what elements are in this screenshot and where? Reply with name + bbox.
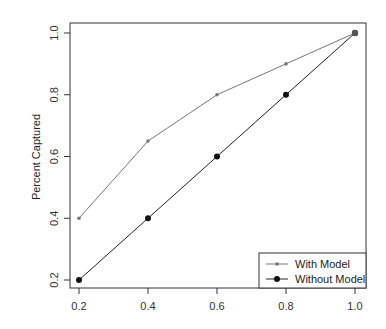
x-tick-label: 1.0 xyxy=(347,300,362,312)
y-tick-label: 1.0 xyxy=(48,25,60,40)
data-point xyxy=(352,30,358,36)
x-tick-label: 0.2 xyxy=(71,300,86,312)
data-point xyxy=(214,154,220,160)
with-model-legend-marker xyxy=(275,262,279,266)
y-tick-label: 0.8 xyxy=(48,87,60,102)
data-point xyxy=(283,92,289,98)
series-group xyxy=(76,30,358,283)
data-point xyxy=(77,216,81,220)
lift-chart: 0.20.40.60.81.0 0.20.40.60.81.0 Percent … xyxy=(0,0,386,329)
x-tick-label: 0.4 xyxy=(140,300,155,312)
y-tick-label: 0.2 xyxy=(48,272,60,287)
without-model-legend-marker xyxy=(274,276,280,282)
data-point xyxy=(145,215,151,221)
data-point xyxy=(284,62,288,66)
legend-label-with-model: With Model xyxy=(295,258,350,270)
x-tick-label: 0.8 xyxy=(278,300,293,312)
series-line xyxy=(79,33,355,218)
legend-label-without-model: Without Model xyxy=(295,273,365,285)
data-point xyxy=(146,139,150,143)
data-point xyxy=(76,277,82,283)
x-axis: 0.20.40.60.81.0 xyxy=(71,288,362,312)
y-axis-title: Percent Captured xyxy=(30,114,42,200)
y-tick-label: 0.6 xyxy=(48,149,60,164)
y-axis: 0.20.40.60.81.0 xyxy=(48,25,70,287)
x-tick-label: 0.6 xyxy=(209,300,224,312)
data-point xyxy=(215,93,219,97)
y-tick-label: 0.4 xyxy=(48,211,60,226)
legend: With Model Without Model xyxy=(259,253,366,288)
